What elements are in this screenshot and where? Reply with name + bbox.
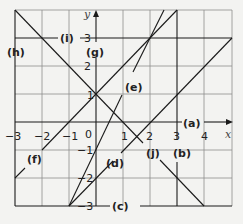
label-a: (a) [183,117,200,130]
label-j: (j) [146,147,160,160]
line-e [133,10,164,72]
y-tick: −1 [77,144,93,157]
grid [15,10,232,206]
x-tick: 2 [146,130,153,143]
x-tick: 1 [121,130,128,143]
line-f [15,168,25,178]
y-tick: −3 [77,200,93,213]
y-tick: 2 [84,60,91,73]
x-tick: −3 [5,130,21,143]
label-d: (d) [106,157,124,170]
line-j [15,10,143,143]
line-graph: y x −3 −2 −1 0 1 2 3 4 3 2 1 −1 −2 −3 (a… [0,0,243,224]
label-i: (i) [60,32,74,45]
y-tick: 3 [84,32,91,45]
x-axis-label: x [225,128,232,141]
line-f [42,10,177,150]
x-tick: −2 [34,130,50,143]
y-axis-label: y [83,8,91,21]
y-tick: −2 [77,172,93,185]
x-tick: 0 [85,128,92,141]
label-b: (b) [173,147,191,160]
label-c: (c) [112,200,129,213]
label-f: (f) [27,153,42,166]
x-tick: 4 [201,130,208,143]
x-tick: −1 [62,130,78,143]
x-tick: 3 [173,130,180,143]
line-j [160,160,204,206]
label-g: (g) [86,46,104,59]
y-axis-arrow-icon [93,10,99,17]
label-h: (h) [7,46,25,59]
y-tick: 1 [87,89,94,102]
label-e: (e) [125,81,143,94]
